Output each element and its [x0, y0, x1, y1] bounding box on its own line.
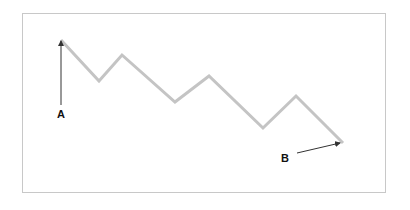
zigzag-line	[61, 40, 343, 143]
arrow-to-b	[297, 143, 340, 153]
label-a: A	[57, 108, 65, 120]
label-b: B	[281, 152, 289, 164]
zigzag-diagram	[0, 0, 410, 210]
